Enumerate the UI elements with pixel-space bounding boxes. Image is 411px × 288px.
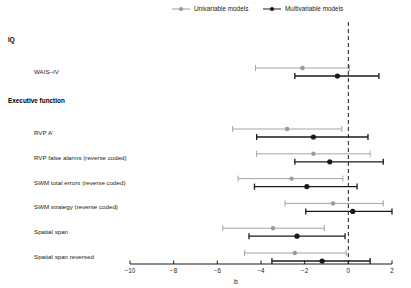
- estimate-univariable: [245, 250, 347, 256]
- point-estimate: [271, 226, 275, 230]
- x-axis-title: b: [234, 278, 238, 285]
- estimate-multivariable: [295, 159, 383, 165]
- legend-item[interactable]: Univariable models: [172, 5, 248, 12]
- forest-row: RVP A': [34, 126, 368, 140]
- point-estimate: [293, 251, 297, 255]
- estimate-multivariable: [295, 73, 379, 79]
- legend-label-1: Univariable models: [194, 5, 248, 12]
- row-label: Spatial span: [34, 228, 69, 235]
- point-estimate: [285, 127, 289, 131]
- legend-item[interactable]: Multivariable models: [263, 5, 343, 12]
- point-estimate: [311, 152, 315, 156]
- group-header-2: Executive function: [8, 97, 65, 104]
- point-estimate: [311, 134, 316, 139]
- row-label: RVP A': [34, 129, 53, 136]
- point-estimate: [331, 201, 335, 205]
- plot-area: IQWAIS–IVExecutive functionRVP A'RVP fal…: [8, 22, 392, 264]
- point-estimate: [300, 66, 304, 70]
- forest-row: SWM total errors (reverse coded): [34, 176, 357, 190]
- row-label: SWM total errors (reverse coded): [34, 179, 125, 186]
- row-label: SWM strategy (reverse coded): [34, 203, 118, 210]
- row-label: Spatial span reversed: [34, 253, 94, 260]
- legend-label-2: Multivariable models: [285, 5, 343, 12]
- point-estimate: [294, 234, 299, 239]
- forest-row: SWM strategy (reverse coded): [34, 200, 392, 214]
- row-label: WAIS–IV: [34, 68, 60, 75]
- x-axis-tick-label: −2: [301, 267, 309, 274]
- estimate-multivariable: [254, 184, 357, 190]
- x-axis-tick-label: 0: [347, 267, 351, 274]
- point-estimate: [289, 176, 293, 180]
- forest-row: Spatial span reversed: [34, 250, 370, 264]
- estimate-multivariable: [257, 134, 368, 140]
- axis: −10−8−6−4−202b: [125, 261, 395, 286]
- legend: Univariable modelsMultivariable models: [172, 5, 343, 12]
- estimate-univariable: [285, 200, 383, 206]
- estimate-multivariable: [306, 208, 392, 214]
- estimate-univariable: [238, 176, 343, 182]
- estimate-univariable: [257, 151, 371, 157]
- x-axis-tick-label: −10: [125, 267, 136, 274]
- legend-marker-1: [179, 7, 183, 11]
- point-estimate: [335, 73, 340, 78]
- x-axis-tick-label: −6: [214, 267, 222, 274]
- estimate-univariable: [223, 225, 325, 231]
- x-axis-tick-label: 2: [390, 267, 394, 274]
- estimate-univariable: [233, 126, 342, 132]
- x-axis-tick-label: −4: [257, 267, 265, 274]
- point-estimate: [320, 258, 325, 263]
- forest-plot-figure: Univariable modelsMultivariable models I…: [0, 0, 411, 288]
- estimate-univariable: [256, 65, 350, 71]
- legend-marker-2: [270, 7, 274, 11]
- point-estimate: [327, 159, 332, 164]
- forest-row: Spatial span: [34, 225, 345, 239]
- x-axis-tick-label: −8: [170, 267, 178, 274]
- row-label: RVP false alarms (reverse coded): [34, 154, 127, 161]
- forest-row: RVP false alarms (reverse coded): [34, 151, 383, 165]
- point-estimate: [350, 209, 355, 214]
- point-estimate: [304, 184, 309, 189]
- forest-row: WAIS–IV: [34, 65, 379, 79]
- estimate-multivariable: [249, 233, 345, 239]
- group-header-1: IQ: [8, 36, 15, 44]
- estimate-multivariable: [272, 258, 370, 264]
